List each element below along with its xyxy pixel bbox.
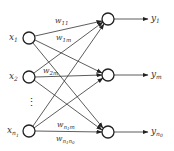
input-label-x1: x1 xyxy=(9,32,18,43)
input-nodes xyxy=(23,32,35,137)
neural-network-diagram: ⋮ x1 x2 xn1 y1 ym yn0 w11 w1m w2m wn1m w… xyxy=(0,0,174,151)
weight-label-w11: w11 xyxy=(55,16,68,26)
input-node-xn1 xyxy=(23,125,35,137)
output-nodes xyxy=(102,13,114,138)
output-node-yn0 xyxy=(102,126,114,138)
output-label-yn0: yn0 xyxy=(150,126,163,138)
input-label-x2: x2 xyxy=(9,71,18,82)
output-node-y1 xyxy=(102,13,114,25)
weight-label-wn1n0: wn1n0 xyxy=(56,134,75,145)
input-ellipsis: ⋮ xyxy=(26,96,37,109)
output-arrows xyxy=(114,19,148,132)
input-node-x1 xyxy=(23,32,35,44)
output-label-ym: ym xyxy=(150,69,162,80)
output-label-y1: y1 xyxy=(150,13,160,24)
input-node-x2 xyxy=(23,71,35,83)
edge-xn1-yn0 xyxy=(35,131,102,132)
output-node-ym xyxy=(102,69,114,81)
edge-x1-y1 xyxy=(35,21,102,36)
weight-label-wn1m: wn1m xyxy=(57,120,75,131)
weight-label-w1m: w1m xyxy=(56,33,71,43)
edge-x2-yn0 xyxy=(34,80,102,130)
weight-label-w2m: w2m xyxy=(43,66,58,76)
input-label-xn1: xn1 xyxy=(7,125,19,138)
